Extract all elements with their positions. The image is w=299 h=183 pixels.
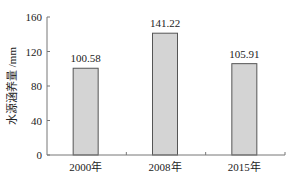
bar-value-label: 141.22 <box>150 17 180 29</box>
x-tick-label: 2015年 <box>228 160 261 173</box>
y-axis-label: 水源涵养量 /mm <box>5 47 18 125</box>
plot-area: 100.58141.22105.91 <box>71 17 260 155</box>
y-axis: 04080120160 <box>26 11 51 161</box>
y-tick-label: 160 <box>26 11 43 23</box>
x-tick-label: 2008年 <box>149 160 182 173</box>
y-tick-label: 0 <box>37 149 43 161</box>
x-axis: 2000年2008年2015年 <box>47 152 285 173</box>
y-tick-label: 40 <box>31 115 43 127</box>
bar-value-label: 105.91 <box>229 48 259 60</box>
bar <box>73 68 98 155</box>
bar-value-label: 100.58 <box>71 52 102 64</box>
bar <box>232 64 257 155</box>
y-tick-label: 80 <box>31 80 43 92</box>
y-tick-label: 120 <box>26 46 43 58</box>
bar-chart: 100.58141.22105.91 04080120160 2000年2008… <box>0 0 299 183</box>
bar <box>153 33 178 155</box>
x-tick-label: 2000年 <box>69 160 102 173</box>
